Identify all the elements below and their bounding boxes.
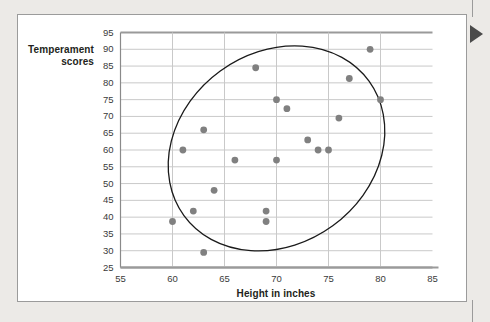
y-tick-label: 25 (92, 262, 114, 273)
y-tick-label: 85 (92, 60, 114, 71)
y-tick-label: 70 (92, 110, 114, 121)
y-tick-label: 30 (92, 245, 114, 256)
y-tick-label: 65 (92, 127, 114, 138)
x-tick-label: 55 (109, 273, 133, 284)
x-axis-title: Height in inches (120, 288, 432, 299)
right-rail-bottom (472, 300, 473, 322)
y-tick-label: 40 (92, 211, 114, 222)
x-tick-label: 75 (317, 273, 341, 284)
x-tick-label: 65 (213, 273, 237, 284)
x-tick-label: 70 (265, 273, 289, 284)
y-tick-label: 95 (92, 27, 114, 38)
y-tick-label: 80 (92, 77, 114, 88)
y-tick-label: 45 (92, 194, 114, 205)
y-tick-label: 55 (92, 161, 114, 172)
y-tick-label: 75 (92, 94, 114, 105)
y-tick-label: 60 (92, 144, 114, 155)
right-rail-top (472, 0, 473, 17)
y-tick-label: 35 (92, 228, 114, 239)
x-tick-label: 80 (369, 273, 393, 284)
x-tick-label: 60 (161, 273, 185, 284)
figure-root: Temperament scores Height in inches 2530… (0, 0, 490, 322)
y-tick-label: 50 (92, 178, 114, 189)
x-tick-label: 85 (421, 273, 445, 284)
y-axis-title: Temperament scores (22, 44, 94, 68)
right-arrow-pointer-icon (470, 25, 483, 43)
y-tick-label: 90 (92, 43, 114, 54)
